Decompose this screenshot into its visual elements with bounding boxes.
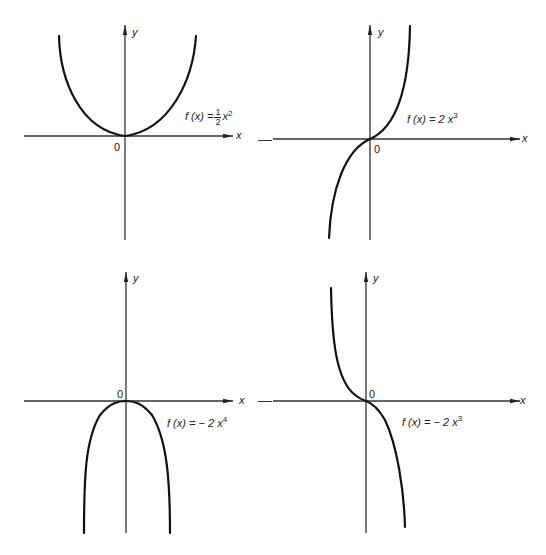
edge-mark xyxy=(258,401,272,402)
curve-neg-two-x-cubed xyxy=(331,288,405,527)
y-axis-label: y xyxy=(132,27,138,38)
exponent: 3 xyxy=(458,414,462,423)
exponent: 2 xyxy=(228,109,232,118)
origin-label: 0 xyxy=(369,389,375,400)
edge-mark xyxy=(258,140,272,141)
function-name: f (x) = xyxy=(185,110,213,122)
y-axis-label: y xyxy=(133,273,139,284)
function-name: f (x) = − 2 x xyxy=(402,416,458,428)
fraction-one-half: 12 xyxy=(214,108,221,127)
curve-half-x-squared xyxy=(59,36,196,136)
function-name: f (x) = 2 x xyxy=(407,113,453,125)
exponent: 3 xyxy=(453,111,457,120)
x-axis-label: x xyxy=(239,395,245,406)
origin-label: 0 xyxy=(114,142,120,153)
panel-top-left xyxy=(24,25,233,240)
origin-label: 0 xyxy=(374,144,380,155)
exponent: 4 xyxy=(223,415,227,424)
panel-bottom-left xyxy=(24,272,233,533)
function-name: f (x) = − 2 x xyxy=(167,417,223,429)
function-label: f (x) = 2 x3 xyxy=(407,112,458,125)
origin-label: 0 xyxy=(117,389,123,400)
function-label: f (x) = − 2 x3 xyxy=(402,415,462,428)
panel-bottom-right xyxy=(273,272,520,533)
function-graphs xyxy=(0,0,546,555)
y-axis-label: y xyxy=(378,27,384,38)
x-axis-label: x xyxy=(520,395,526,406)
function-label: f (x) = − 2 x4 xyxy=(167,416,227,429)
y-axis-label: y xyxy=(373,273,379,284)
panel-top-right xyxy=(273,25,520,240)
function-label: f (x) =12x2 xyxy=(185,108,232,127)
curve-neg-two-x-fourth xyxy=(84,401,170,533)
x-axis-label: x xyxy=(522,133,528,144)
x-axis-label: x xyxy=(236,130,242,141)
